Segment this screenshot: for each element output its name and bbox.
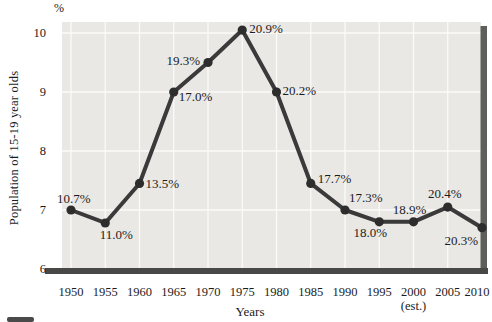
y-tick-label: 10 [34, 26, 47, 40]
line-chart-plot-area: 10.7%11.0%13.5%17.0%19.3%20.9%20.2%17.7%… [0, 0, 492, 322]
chart-figure: % Population of 15-19 year olds 10.7%11.… [0, 0, 492, 322]
point-value-label: 10.7% [57, 191, 91, 206]
data-point [443, 202, 452, 211]
y-tick-label: 9 [40, 85, 46, 99]
x-tick-label: 1965 [161, 285, 186, 299]
x-tick-label: 1970 [196, 285, 221, 299]
data-point [238, 25, 247, 34]
data-point [66, 205, 75, 214]
x-tick-label: 1955 [93, 285, 118, 299]
x-tick-label: 2005 [435, 285, 460, 299]
cutoff-caption-fragment [7, 317, 34, 322]
data-point [169, 87, 178, 96]
x-tick-label: 2010 [465, 285, 490, 299]
x-tick-label: 1980 [264, 285, 289, 299]
data-point [272, 87, 281, 96]
x-tick-note: (est.) [401, 299, 426, 313]
point-value-label: 20.3% [444, 233, 478, 248]
point-value-label: 18.9% [393, 202, 427, 217]
x-tick-label: 1995 [367, 285, 392, 299]
point-value-label: 18.0% [353, 225, 387, 240]
point-value-label: 17.0% [179, 89, 213, 104]
point-value-label: 20.4% [428, 186, 462, 201]
data-point [135, 179, 144, 188]
data-point [340, 205, 349, 214]
x-tick-label: 2000 [401, 285, 426, 299]
x-axis-bar [45, 268, 488, 274]
y-tick-label: 6 [40, 262, 46, 276]
x-tick-label: 1985 [298, 285, 323, 299]
point-value-label: 11.0% [100, 227, 133, 242]
point-value-label: 17.7% [318, 171, 352, 186]
panel-right-shadow [481, 26, 488, 274]
data-point [477, 223, 486, 232]
x-tick-label: 1950 [59, 285, 84, 299]
x-tick-label: 1960 [127, 285, 152, 299]
point-value-label: 19.3% [166, 53, 200, 68]
x-tick-label: 1990 [333, 285, 358, 299]
data-point [203, 58, 212, 67]
data-point [306, 179, 315, 188]
data-point [409, 217, 418, 226]
y-tick-label: 8 [40, 144, 46, 158]
x-tick-label: 1975 [230, 285, 255, 299]
point-value-label: 13.5% [146, 176, 180, 191]
point-value-label: 17.3% [349, 190, 383, 205]
point-value-label: 20.2% [283, 83, 317, 98]
y-tick-label: 7 [40, 203, 46, 217]
x-axis-title: Years [235, 304, 264, 320]
point-value-label: 20.9% [249, 21, 283, 36]
